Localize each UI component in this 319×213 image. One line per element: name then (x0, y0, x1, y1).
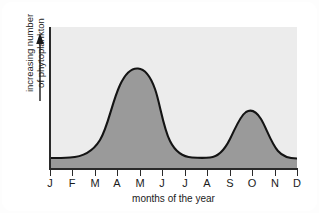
x-tick-label-nov: N (265, 177, 285, 190)
x-tick (185, 170, 186, 176)
x-tick (230, 170, 231, 176)
x-tick-label-jan: J (40, 177, 60, 190)
up-arrow-icon (33, 33, 47, 101)
x-tick (297, 170, 298, 176)
x-tick (162, 170, 163, 176)
x-tick-label-apr: A (107, 177, 127, 190)
x-tick (72, 170, 73, 176)
x-tick (275, 170, 276, 176)
x-tick-label-feb: F (62, 177, 82, 190)
plot-area (50, 27, 297, 169)
figure-card: J F M A M J J A S O N D months of the ye… (2, 2, 317, 211)
x-tick-label-sep: S (220, 177, 240, 190)
x-tick-label-aug: A (197, 177, 217, 190)
x-tick-label-dec: D (287, 177, 307, 190)
x-axis-line (49, 168, 298, 170)
x-tick-label-oct: O (242, 177, 262, 190)
x-tick-label-mar: M (85, 177, 105, 190)
x-tick (117, 170, 118, 176)
x-tick (252, 170, 253, 176)
x-axis-title: months of the year (50, 193, 297, 204)
phytoplankton-curve (50, 27, 297, 169)
x-tick (95, 170, 96, 176)
x-tick (207, 170, 208, 176)
x-tick-label-jun: J (152, 177, 172, 190)
x-tick-label-may: M (130, 177, 150, 190)
x-tick (140, 170, 141, 176)
figure-container: J F M A M J J A S O N D months of the ye… (0, 0, 319, 213)
y-axis-line (49, 27, 51, 170)
x-tick-label-jul: J (175, 177, 195, 190)
x-tick (50, 170, 51, 176)
